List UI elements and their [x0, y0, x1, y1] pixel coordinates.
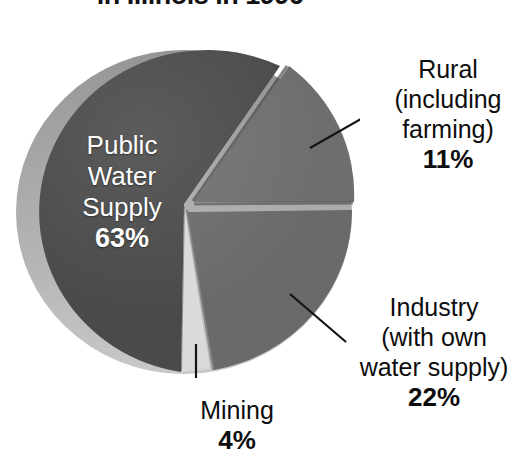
- industry-value: 22%: [336, 382, 532, 413]
- rural-label-line1: Rural: [418, 55, 478, 83]
- industry-label-line1: Industry: [390, 293, 479, 321]
- pws-value: 63%: [54, 223, 190, 254]
- pws-label-line2: Water: [88, 161, 156, 191]
- slice-label-industry: Industry (with own water supply) 22%: [336, 292, 532, 413]
- mining-value: 4%: [152, 425, 322, 456]
- industry-label-line2: (with own: [381, 323, 487, 351]
- rural-value: 11%: [368, 144, 528, 175]
- slice-label-public-water-supply: Public Water Supply 63%: [54, 130, 190, 254]
- pws-label-line1: Public: [87, 130, 158, 160]
- pws-label-line3: Supply: [82, 192, 162, 222]
- mining-label-line1: Mining: [200, 396, 274, 424]
- pie-chart-graphic: Public Water Supply 63%: [8, 26, 360, 378]
- rural-label-line3: farming): [402, 115, 494, 143]
- page-title: in Illinois in 1996: [0, 0, 400, 11]
- slice-label-mining: Mining 4%: [152, 395, 322, 456]
- rural-label-line2: (including: [394, 85, 501, 113]
- slice-label-rural: Rural (including farming) 11%: [368, 54, 528, 175]
- industry-label-line3: water supply): [360, 353, 509, 381]
- pie-chart-figure: in Illinois in 1996: [0, 0, 532, 471]
